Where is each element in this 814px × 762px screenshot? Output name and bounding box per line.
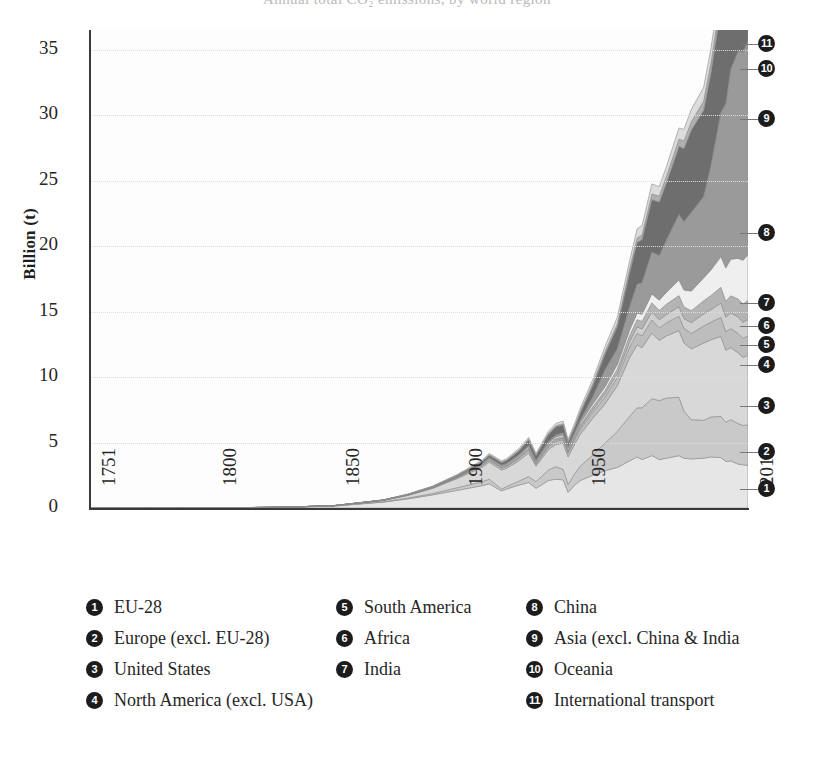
callout-leader-line [740,233,758,234]
legend-item-label: Oceania [554,659,613,680]
legend-badge-icon: 2 [86,630,103,647]
gridline [90,246,748,247]
legend-item-8[interactable]: 8China [526,592,786,623]
callout-badge: 7 [758,294,775,311]
y-axis-line [89,30,91,510]
callout-badge: 11 [758,35,775,52]
gridline [90,115,748,116]
gridline [90,181,748,182]
callout-leader-line [740,489,758,490]
legend-badge-icon: 9 [526,630,543,647]
legend-column-3: 8China9Asia (excl. China & India10Oceani… [526,592,786,716]
legend-badge-icon: 10 [526,661,543,678]
gridline [90,443,748,444]
callout-badge: 10 [758,60,775,77]
y-tick-label: 5 [18,430,58,452]
legend-item-2[interactable]: 2Europe (excl. EU-28) [86,623,316,654]
callout-badge: 9 [758,110,775,127]
callout-badge: 3 [758,397,775,414]
y-tick-label: 20 [18,233,58,255]
co2-emissions-stacked-area-figure: Annual total CO₂ emissions, by world reg… [0,0,814,762]
legend-badge-icon: 1 [86,599,103,616]
legend-badge-icon: 11 [526,692,543,709]
x-tick-label: 1850 [342,448,360,518]
y-tick-label: 25 [18,168,58,190]
y-tick-label: 15 [18,299,58,321]
y-tick-label: 0 [18,495,58,517]
callout-badge: 2 [758,443,775,460]
legend-badge-icon: 8 [526,599,543,616]
legend-item-1[interactable]: 1EU-28 [86,592,316,623]
callout-badge: 4 [758,356,775,373]
plot-area [90,30,748,508]
x-axis-line [89,508,749,510]
x-tick-label: 1800 [219,448,237,518]
legend-column-2: 5South America6Africa7India [336,592,526,685]
callout-leader-line [740,326,758,327]
legend-item-label: United States [114,659,211,680]
x-tick-label: 1751 [98,448,116,518]
callout-leader-line [740,365,758,366]
legend-item-label: South America [364,597,471,618]
callout-leader-line [740,452,758,453]
legend-item-label: Asia (excl. China & India [554,628,739,649]
legend-item-label: Europe (excl. EU-28) [114,628,269,649]
legend-item-label: China [554,597,597,618]
legend-column-1: 1EU-282Europe (excl. EU-28)3United State… [86,592,316,716]
callout-leader-line [740,69,758,70]
legend-item-3[interactable]: 3United States [86,654,316,685]
gridline [90,312,748,313]
legend-item-11[interactable]: 11International transport [526,685,786,716]
legend-item-10[interactable]: 10Oceania [526,654,786,685]
callout-leader-line [740,345,758,346]
legend-badge-icon: 7 [336,661,353,678]
figure-title: Annual total CO₂ emissions, by world reg… [0,0,814,7]
legend-badge-icon: 4 [86,692,103,709]
callout-badge: 8 [758,224,775,241]
legend-item-4[interactable]: 4North America (excl. USA) [86,685,316,716]
y-tick-label: 10 [18,364,58,386]
legend-item-label: Africa [364,628,410,649]
legend-item-7[interactable]: 7India [336,654,526,685]
callout-leader-line [740,303,758,304]
gridline [90,377,748,378]
stacked-area-series [90,30,748,508]
callout-badge: 1 [758,480,775,497]
x-tick-label: 1950 [588,448,606,518]
legend-item-label: EU-28 [114,597,162,618]
legend-badge-icon: 6 [336,630,353,647]
legend-item-label: India [364,659,401,680]
callout-badge: 5 [758,336,775,353]
callout-leader-line [740,406,758,407]
legend-item-label: North America (excl. USA) [114,690,313,711]
x-tick-label: 1900 [465,448,483,518]
legend-item-9[interactable]: 9Asia (excl. China & India [526,623,786,654]
legend-badge-icon: 5 [336,599,353,616]
area-series-1 [90,456,748,508]
legend-item-5[interactable]: 5South America [336,592,526,623]
legend-item-label: International transport [554,690,714,711]
legend-badge-icon: 3 [86,661,103,678]
callout-badge: 6 [758,317,775,334]
callout-leader-line [740,119,758,120]
y-tick-label: 35 [18,37,58,59]
legend: 1EU-282Europe (excl. EU-28)3United State… [86,592,786,742]
gridline [90,50,748,51]
legend-item-6[interactable]: 6Africa [336,623,526,654]
callout-leader-line [740,44,758,45]
y-tick-label: 30 [18,102,58,124]
